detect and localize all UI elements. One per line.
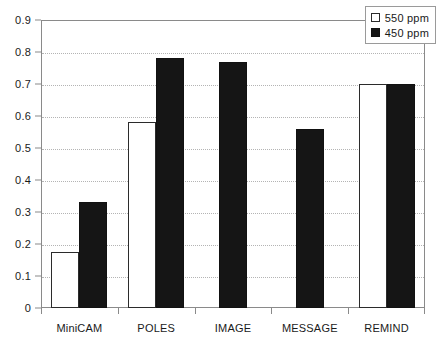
x-tick-mark: [348, 308, 349, 314]
bar-450ppm: [79, 202, 107, 308]
legend-item-label: 450 ppm: [385, 27, 429, 39]
bar-550ppm: [359, 84, 387, 308]
y-tick-label: 0.6: [15, 110, 31, 122]
y-tick-label: 0.2: [15, 238, 31, 250]
y-tick-label: 0.5: [15, 142, 31, 154]
x-axis: MiniCAMPOLESIMAGEMESSAGEREMIND: [41, 308, 425, 354]
x-tick-mark: [424, 308, 425, 314]
y-tick-label: 0: [25, 302, 31, 314]
y-tick-label: 0.7: [15, 78, 31, 90]
x-tick-mark: [118, 308, 119, 314]
legend: 550 ppm 450 ppm: [365, 6, 436, 44]
open-square-swatch: [371, 13, 380, 22]
bar-450ppm: [296, 129, 324, 308]
x-tick-label: REMIND: [364, 322, 409, 334]
bar-group: [348, 20, 425, 308]
y-tick-label: 0.1: [15, 270, 31, 282]
x-tick-mark: [271, 308, 272, 314]
bar-550ppm: [128, 122, 156, 308]
bar-group: [41, 20, 118, 308]
bar-group: [195, 20, 272, 308]
bar-550ppm: [51, 252, 79, 308]
y-tick-label: 0.8: [15, 46, 31, 58]
x-tick-mark: [195, 308, 196, 314]
x-tick-label: MESSAGE: [282, 322, 338, 334]
bar-450ppm: [156, 58, 184, 308]
bar-450ppm: [219, 62, 247, 308]
bars-layer: [41, 20, 425, 308]
x-tick-label: IMAGE: [215, 322, 251, 334]
x-tick-label: POLES: [137, 322, 175, 334]
legend-item-label: 550 ppm: [385, 12, 429, 24]
y-tick-label: 0.9: [15, 14, 31, 26]
bar-group: [271, 20, 348, 308]
x-tick-label: MiniCAM: [56, 322, 102, 334]
bar-group: [118, 20, 195, 308]
x-tick-mark: [41, 308, 42, 314]
legend-item: 550 ppm: [371, 10, 429, 25]
y-tick-label: 0.4: [15, 174, 31, 186]
legend-item: 450 ppm: [371, 25, 429, 40]
bar-450ppm: [387, 84, 415, 308]
bar-chart: 0.90.80.70.60.50.40.30.20.10 MiniCAMPOLE…: [0, 0, 444, 354]
y-axis: 0.90.80.70.60.50.40.30.20.10: [0, 0, 41, 354]
filled-square-swatch: [371, 28, 380, 37]
y-tick-label: 0.3: [15, 206, 31, 218]
